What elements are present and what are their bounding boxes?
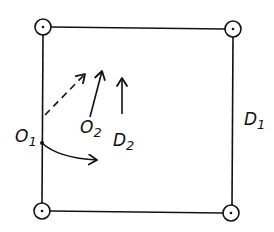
corner-marker-bottom-right bbox=[223, 205, 239, 221]
square-bottom-edge bbox=[50, 211, 223, 213]
label-o1: O1 bbox=[15, 126, 37, 149]
curved-arrow bbox=[42, 143, 97, 160]
dashed-arrow bbox=[45, 74, 85, 115]
o2-arrow bbox=[90, 71, 102, 117]
square-right-edge bbox=[232, 37, 233, 205]
corner-marker-bottom-left bbox=[34, 203, 50, 219]
square-d1 bbox=[42, 27, 233, 213]
square-top-edge bbox=[51, 27, 225, 29]
diagram-canvas: O1 O2 D2 D1 bbox=[0, 0, 274, 232]
label-d2: D2 bbox=[113, 130, 134, 153]
o1-point bbox=[40, 141, 44, 145]
corner-marker-top-right bbox=[225, 21, 241, 37]
corner-marker-top-left bbox=[35, 19, 51, 35]
label-o2: O2 bbox=[80, 117, 102, 140]
square-left-edge bbox=[42, 35, 43, 203]
label-d1: D1 bbox=[244, 109, 265, 132]
